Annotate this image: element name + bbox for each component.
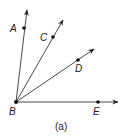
label-e: E: [93, 106, 100, 117]
label-d: D: [75, 63, 82, 74]
point-a: [22, 26, 26, 30]
caption: (a): [55, 121, 67, 132]
ray-bc: C: [16, 20, 63, 102]
label-b: B: [9, 106, 16, 117]
point-c: [51, 35, 55, 39]
point-e: [96, 100, 100, 104]
label-a: A: [9, 23, 17, 34]
ray-be: E: [16, 100, 118, 117]
ray-bd: D: [16, 49, 94, 102]
label-c: C: [40, 32, 48, 43]
vertex-b: [14, 100, 18, 104]
point-d: [76, 58, 80, 62]
rays-diagram: A C D E B (a): [0, 0, 124, 136]
